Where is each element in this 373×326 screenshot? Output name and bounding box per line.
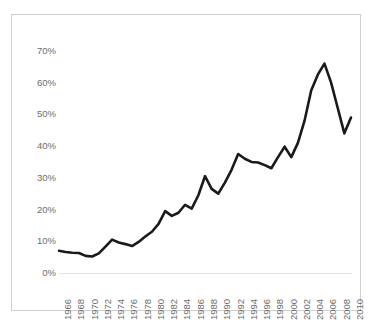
x-axis-tick-label: 1966: [63, 299, 73, 320]
chart-plot-wrapper: 0%10%20%30%40%50%60%70% 1966196819701972…: [12, 15, 360, 310]
x-axis-tick-label: 2006: [328, 299, 338, 320]
x-axis-tick-label: 2004: [315, 299, 325, 320]
x-axis-tick-label: 1984: [182, 299, 192, 320]
x-axis: 1966196819701972197419761978198019821984…: [59, 276, 351, 324]
x-axis-tick-label: 1998: [275, 299, 285, 320]
x-axis-tick-label: 1974: [116, 299, 126, 320]
line-series-svg: [59, 35, 351, 273]
y-axis-tick-label: 20%: [37, 205, 56, 215]
x-axis-tick-label: 1994: [249, 299, 259, 320]
y-axis-tick-label: 60%: [37, 78, 56, 88]
y-axis-tick-label: 30%: [37, 173, 56, 183]
x-axis-tick-label: 1992: [236, 299, 246, 320]
x-axis-tick-label: 2010: [355, 299, 365, 320]
y-axis-tick-label: 10%: [37, 236, 56, 246]
x-axis-tick-label: 1996: [262, 299, 272, 320]
x-axis-tick-label: 1976: [129, 299, 139, 320]
x-axis-tick-label: 1986: [196, 299, 206, 320]
y-axis: 0%10%20%30%40%50%60%70%: [20, 15, 56, 310]
x-axis-tick-label: 1980: [156, 299, 166, 320]
x-axis-tick-label: 1988: [209, 299, 219, 320]
x-axis-tick-label: 2008: [342, 299, 352, 320]
x-axis-tick-label: 1968: [76, 299, 86, 320]
x-axis-tick-label: 1990: [222, 299, 232, 320]
x-axis-tick-label: 1972: [103, 299, 113, 320]
x-axis-tick-label: 1978: [143, 299, 153, 320]
x-axis-tick-label: 2000: [289, 299, 299, 320]
x-axis-baseline: [59, 273, 352, 274]
y-axis-tick-label: 0%: [42, 268, 56, 278]
y-axis-tick-label: 40%: [37, 141, 56, 151]
chart-container: 0%10%20%30%40%50%60%70% 1966196819701972…: [11, 14, 361, 311]
y-axis-tick-label: 70%: [37, 46, 56, 56]
line-series-path: [59, 64, 351, 257]
x-axis-tick-label: 2002: [302, 299, 312, 320]
x-axis-tick-label: 1982: [169, 299, 179, 320]
y-axis-tick-label: 50%: [37, 109, 56, 119]
plot-area: [59, 35, 351, 273]
x-axis-tick-label: 1970: [90, 299, 100, 320]
